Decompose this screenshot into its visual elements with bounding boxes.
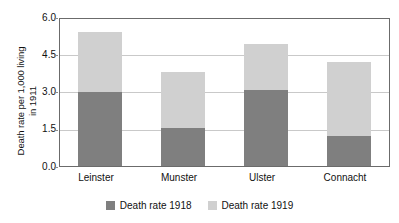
legend-swatch-1919-icon bbox=[208, 201, 217, 210]
x-label-munster: Munster bbox=[135, 171, 223, 185]
bar-segment-ulster-death-rate-1918 bbox=[244, 90, 288, 166]
bar-segment-leinster-death-rate-1919 bbox=[78, 32, 122, 92]
x-axis-category-labels: Leinster Munster Ulster Connacht bbox=[59, 171, 390, 187]
bar-segment-connacht-death-rate-1918 bbox=[327, 136, 371, 166]
y-tick-mark-3.0 bbox=[54, 92, 58, 93]
y-tick-mark-1.5 bbox=[54, 130, 58, 131]
y-tick-mark-4.5 bbox=[54, 55, 58, 56]
y-tick-label-3.0: 3.0 bbox=[30, 87, 56, 97]
y-axis-ticks: 6.0 4.5 3.0 1.5 0.0 bbox=[28, 0, 56, 223]
bars-layer bbox=[60, 19, 389, 166]
y-tick-mark-6.0 bbox=[54, 18, 58, 19]
y-tick-label-6.0: 6.0 bbox=[30, 13, 56, 23]
bar-segment-leinster-death-rate-1918 bbox=[78, 92, 122, 167]
bar-segment-ulster-death-rate-1919 bbox=[244, 44, 288, 90]
legend-label-1919: Death rate 1919 bbox=[222, 200, 294, 211]
bar-segment-connacht-death-rate-1919 bbox=[327, 62, 371, 137]
y-axis-title-line-1: Death rate per 1,000 living bbox=[15, 19, 27, 184]
x-label-ulster: Ulster bbox=[218, 171, 306, 185]
x-label-connacht: Connacht bbox=[301, 171, 389, 185]
x-label-leinster: Leinster bbox=[52, 171, 140, 185]
bar-segment-munster-death-rate-1918 bbox=[161, 128, 205, 166]
legend-swatch-1918-icon bbox=[106, 201, 115, 210]
bar-segment-munster-death-rate-1919 bbox=[161, 72, 205, 128]
y-tick-label-1.5: 1.5 bbox=[30, 124, 56, 134]
legend-item-1919: Death rate 1919 bbox=[208, 200, 294, 211]
plot-area bbox=[59, 18, 390, 167]
y-tick-mark-0.0 bbox=[54, 167, 58, 168]
legend-item-1918: Death rate 1918 bbox=[106, 200, 192, 211]
chart-legend: Death rate 1918 Death rate 1919 bbox=[0, 196, 399, 214]
stacked-bar-chart: Death rate per 1,000 living in 1911 6.0 … bbox=[0, 0, 399, 223]
y-tick-label-4.5: 4.5 bbox=[30, 50, 56, 60]
legend-label-1918: Death rate 1918 bbox=[120, 200, 192, 211]
